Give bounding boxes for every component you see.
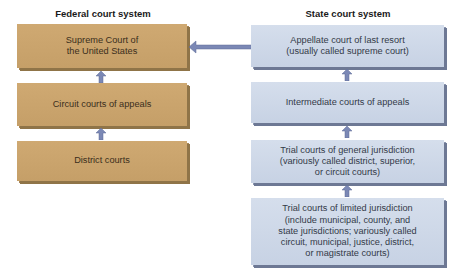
up-arrow-icon <box>342 185 352 197</box>
up-arrow-icon <box>96 71 106 83</box>
appellate-last-resort-box: Appellate court of last resort (usually … <box>251 25 444 67</box>
supreme-court-us-box: Supreme Court of the United States <box>17 24 187 68</box>
up-arrow-icon <box>342 126 352 138</box>
intermediate-appeals-box: Intermediate courts of appeals <box>251 82 444 123</box>
trial-general-jurisdiction-box: Trial courts of general jurisdiction (va… <box>251 140 444 183</box>
circuit-courts-box: Circuit courts of appeals <box>17 83 187 126</box>
trial-limited-jurisdiction-box: Trial courts of limited jurisdiction (in… <box>251 198 444 265</box>
left-arrow-icon <box>189 40 252 54</box>
federal-heading: Federal court system <box>17 8 189 19</box>
trial-general-jurisdiction-label: Trial courts of general jurisdiction (va… <box>280 145 415 179</box>
district-courts-label: District courts <box>74 155 130 166</box>
circuit-courts-label: Circuit courts of appeals <box>53 99 152 110</box>
supreme-court-us-label: Supreme Court of the United States <box>66 35 139 57</box>
trial-limited-jurisdiction-label: Trial courts of limited jurisdiction (in… <box>278 203 416 259</box>
up-arrow-icon <box>342 69 352 81</box>
appellate-last-resort-label: Appellate court of last resort (usually … <box>286 35 409 57</box>
up-arrow-icon <box>96 128 106 140</box>
district-courts-box: District courts <box>17 141 187 181</box>
intermediate-appeals-label: Intermediate courts of appeals <box>286 97 410 108</box>
state-heading: State court system <box>251 8 445 19</box>
